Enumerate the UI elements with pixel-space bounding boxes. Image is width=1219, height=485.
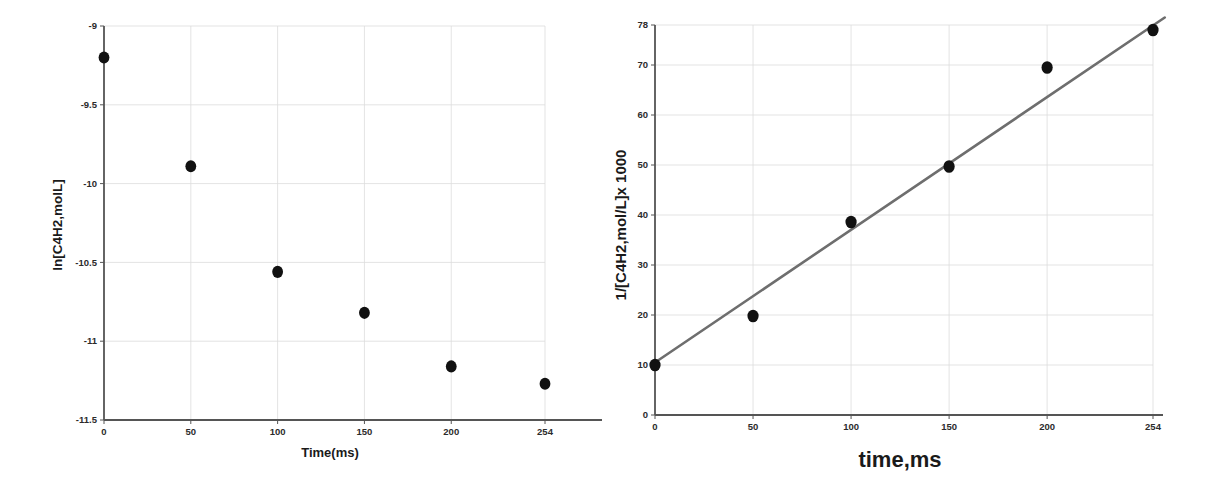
x-tick-label: 200	[443, 426, 459, 437]
y-tick-label: 0	[643, 409, 648, 420]
x-axis-ticks: 050100150200254	[101, 420, 553, 437]
y-tick-label: -11.5	[76, 414, 98, 425]
data-point	[185, 160, 196, 172]
x-tick-label: 200	[1039, 421, 1055, 432]
data-points	[99, 51, 551, 389]
y-tick-label: 78	[637, 19, 648, 30]
data-point	[649, 359, 660, 372]
chart-panel-first-order: 050100150200254-11.5-11-10.5-10-9.5-9Tim…	[0, 0, 610, 485]
data-point	[446, 360, 457, 372]
y-tick-label: 70	[637, 59, 648, 70]
data-point	[1042, 61, 1053, 74]
data-points	[649, 24, 1158, 372]
second-order-scatter-plot: 05010015020025401020304050607078time,ms1…	[610, 0, 1219, 485]
data-point	[1147, 24, 1158, 37]
x-tick-label: 100	[843, 421, 859, 432]
y-tick-label: -9.5	[81, 99, 98, 110]
y-tick-label: 10	[637, 359, 648, 370]
x-tick-label: 150	[941, 421, 957, 432]
y-tick-label: 50	[637, 159, 648, 170]
x-tick-label: 100	[270, 426, 286, 437]
x-tick-label: 50	[186, 426, 197, 437]
data-point	[845, 216, 856, 229]
y-axis-title: ln[C4H2,molL]	[50, 179, 65, 271]
x-tick-label: 150	[357, 426, 373, 437]
y-tick-label: 20	[637, 309, 648, 320]
data-point	[540, 378, 551, 390]
y-tick-label: -11	[84, 335, 98, 346]
y-tick-label: -10	[83, 178, 97, 189]
data-point	[747, 310, 758, 323]
x-tick-label: 50	[748, 421, 759, 432]
trend-line	[655, 18, 1165, 363]
y-tick-label: 60	[637, 109, 648, 120]
x-tick-label: 0	[652, 421, 657, 432]
x-axis-ticks: 050100150200254	[652, 415, 1161, 432]
y-axis-title: 1/[C4H2,mol/L]x 1000	[612, 150, 629, 301]
y-tick-label: 30	[637, 259, 648, 270]
x-tick-label: 254	[537, 426, 554, 437]
chart-panel-second-order: 05010015020025401020304050607078time,ms1…	[610, 0, 1219, 485]
y-tick-label: -10.5	[75, 257, 97, 268]
data-point	[359, 307, 370, 319]
grid-lines	[655, 25, 1153, 415]
first-order-scatter-plot: 050100150200254-11.5-11-10.5-10-9.5-9Tim…	[0, 0, 610, 485]
data-point	[943, 160, 954, 173]
figure-container: 050100150200254-11.5-11-10.5-10-9.5-9Tim…	[0, 0, 1219, 485]
y-tick-label: 40	[637, 209, 648, 220]
x-axis-title: time,ms	[858, 447, 941, 472]
data-point	[272, 266, 283, 278]
y-tick-label: -9	[89, 20, 97, 31]
x-axis-title: Time(ms)	[301, 445, 359, 460]
x-tick-label: 254	[1145, 421, 1162, 432]
data-point	[99, 51, 110, 63]
x-tick-label: 0	[101, 426, 106, 437]
grid-lines	[104, 26, 545, 420]
y-axis-ticks: -11.5-11-10.5-10-9.5-9	[75, 20, 104, 425]
